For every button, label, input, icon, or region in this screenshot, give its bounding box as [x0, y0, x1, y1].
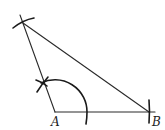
segment-ac — [20, 15, 55, 112]
label-a: A — [50, 115, 60, 129]
segment-cb — [23, 23, 149, 112]
label-b: B — [151, 115, 161, 129]
b-tick-arc — [149, 100, 150, 123]
angle-arc-at-a — [41, 80, 87, 124]
construction-diagram: A B — [0, 0, 165, 130]
